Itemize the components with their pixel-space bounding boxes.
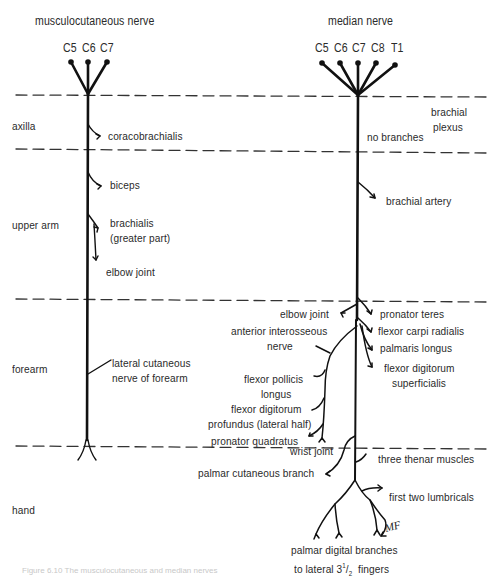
branch-fds-2: superficialis (392, 376, 446, 391)
nerve-diagram: MF musculocutaneous nerve median nerve C… (0, 0, 501, 580)
median-title: median nerve (328, 14, 393, 29)
branch-anterior-interosseous-2: nerve (267, 339, 293, 354)
branch-palmar-digital-2: to lateral 31/2 fingers (294, 558, 389, 580)
branch-brachialis-note: (greater part) (110, 231, 170, 246)
branch-brachial-artery: brachial artery (386, 194, 451, 209)
branch-anterior-interosseous: anterior interosseous (231, 324, 327, 339)
branch-coracobrachialis: coracobrachialis (108, 129, 183, 144)
musculocutaneous-root-dots (68, 59, 110, 65)
branch-palmaris-longus: palmaris longus (380, 341, 452, 356)
root-label: C6 (82, 41, 96, 56)
branch-palmar-digital: palmar digital branches (291, 543, 398, 558)
root-label: C8 (371, 41, 385, 56)
branch-thenar-muscles: three thenar muscles (378, 452, 474, 467)
branch-brachialis: brachialis (110, 216, 154, 231)
musculocutaneous-nerve (71, 62, 107, 440)
branch-fds: flexor digitorum (384, 361, 455, 376)
branch-wrist-joint: wrist joint (290, 444, 333, 459)
root-label: C5 (63, 41, 77, 56)
figure-caption: Figure 6.10 The musculocutaneous and med… (22, 566, 218, 575)
label-brachial-plexus: brachial (431, 105, 467, 120)
branch-fdp-2: profundus (lateral half) (208, 417, 311, 432)
root-label: C6 (334, 41, 348, 56)
branch-elbow-joint-median: elbow joint (280, 307, 329, 322)
region-label-axilla: axilla (12, 119, 36, 134)
branch-flexor-pollicis-longus-2: longus (261, 387, 291, 402)
branch-biceps: biceps (110, 178, 140, 193)
region-label-hand: hand (12, 503, 35, 518)
branch-palmar-cutaneous: palmar cutaneous branch (198, 466, 314, 481)
branch-elbow-joint-mc: elbow joint (106, 265, 155, 280)
branch-pronator-teres: pronator teres (380, 307, 444, 322)
fraction-denominator: 2 (349, 570, 353, 577)
digital-text-fingers: fingers (358, 563, 389, 575)
label-brachial-plexus-2: plexus (433, 120, 463, 135)
branch-lumbricals: first two lumbricals (389, 490, 474, 505)
root-label: C5 (315, 41, 329, 56)
digital-text: to lateral 3 (294, 563, 342, 575)
region-label-forearm: forearm (12, 362, 47, 377)
root-label: C7 (100, 41, 114, 56)
branch-fdp: flexor digitorum (231, 402, 302, 417)
branch-pronator-quadratus: pronator quadratus (211, 434, 298, 449)
musculocutaneous-title: musculocutaneous nerve (35, 14, 154, 29)
root-label: T1 (391, 41, 404, 56)
median-nerve (322, 63, 395, 320)
branch-flexor-carpi-radialis: flexor carpi radialis (378, 324, 464, 339)
branch-no-branches: no branches (367, 130, 424, 145)
branch-lateral-cutaneous-2: nerve of forearm (112, 371, 188, 386)
region-label-upper-arm: upper arm (12, 218, 59, 233)
branch-lateral-cutaneous: lateral cutaneous (112, 356, 191, 371)
root-label: C7 (352, 41, 366, 56)
branch-flexor-pollicis-longus: flexor pollicis (244, 372, 303, 387)
